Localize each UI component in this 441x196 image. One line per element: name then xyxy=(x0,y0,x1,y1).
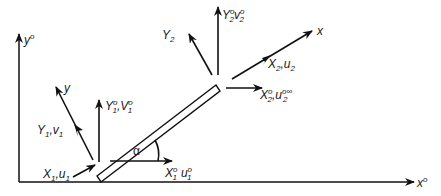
outlet-vectors: Y2 Yo2vo2 x X2,u2 Xo2,uo∞2 xyxy=(162,7,324,104)
local-x-axis xyxy=(232,31,312,79)
y1-v1-arrowhead xyxy=(74,124,83,137)
plate-force-diagram: yo xo α X1,u1 y Y1,v1 Yo1,Vo1 Xo1uo1 Y2 … xyxy=(0,0,441,196)
angle-label: α xyxy=(133,144,140,158)
local-y-axis xyxy=(56,87,93,160)
x1-u1-label: X1,u1 xyxy=(42,167,70,183)
x2o-u2o-label: Xo2,uo∞2 xyxy=(259,87,292,104)
y1-v1-label: Y1,v1 xyxy=(37,123,63,139)
y2o-v2o-label: Yo2vo2 xyxy=(222,7,245,24)
y2-arrow xyxy=(189,34,212,75)
angle-arc xyxy=(155,140,159,161)
y2-label: Y2 xyxy=(162,28,175,44)
local-x-axis-label: x xyxy=(316,24,324,38)
global-x-axis-label: xo xyxy=(416,175,428,190)
global-y-axis-label: yo xyxy=(23,32,35,47)
x1o-u1o-label: Xo1uo1 xyxy=(164,165,193,182)
global-axes: yo xo xyxy=(19,32,428,190)
x1-u1-arrow xyxy=(73,165,95,177)
x2-u2-label: X2,u2 xyxy=(267,57,296,73)
y1o-v1o-label: Yo1,Vo1 xyxy=(105,98,133,115)
local-y-axis-label: y xyxy=(63,81,71,95)
